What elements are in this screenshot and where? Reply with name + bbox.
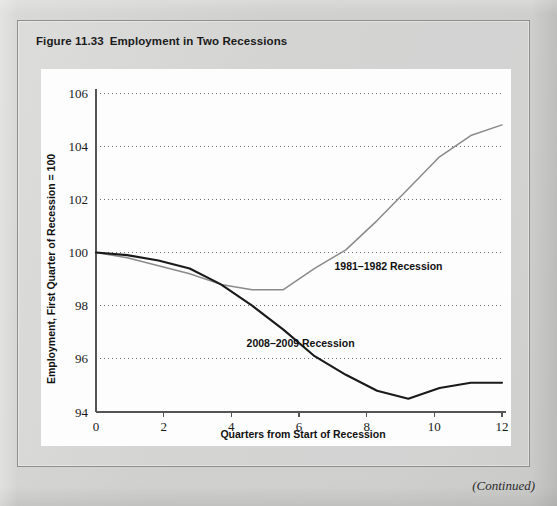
chart-y-tick-labels: 949698100102104106 [69,86,89,420]
x-tick-label-10: 10 [428,419,441,434]
chart-gridlines [96,93,502,359]
y-tick-label-102: 102 [69,192,89,207]
chart-series-annotations: 1981–1982 Recession2008–2009 Recession [247,260,443,349]
chart-plot-panel: 949698100102104106 024681012 1981–1982 R… [41,69,511,446]
chart-axes [96,89,506,412]
series-line-2008-2009 [96,253,502,399]
chart-x-ticks [164,412,502,417]
x-tick-label-0: 0 [93,419,100,434]
y-tick-label-98: 98 [75,298,88,313]
continued-note: (Continued) [472,478,535,494]
chart-x-axis-label: Quarters from Start of Recession [220,428,385,440]
annotation-2008-2009: 2008–2009 Recession [247,337,355,349]
y-tick-label-96: 96 [75,351,89,366]
x-tick-label-2: 2 [160,419,167,434]
figure-box: Figure 11.33Employment in Two Recessions… [17,20,530,467]
page-background: Figure 11.33Employment in Two Recessions… [0,0,557,506]
y-tick-label-94: 94 [75,405,89,420]
x-tick-label-12: 12 [496,419,509,434]
figure-title: Figure 11.33Employment in Two Recessions [36,35,287,47]
employment-recessions-line-chart: 949698100102104106 024681012 1981–1982 R… [41,69,511,446]
y-tick-label-106: 106 [69,86,89,101]
y-tick-label-100: 100 [69,245,89,260]
y-tick-label-104: 104 [69,139,89,154]
figure-number: Figure 11.33 [36,35,104,47]
chart-y-axis-label: Employment, First Quarter of Recession =… [45,154,57,384]
figure-title-text: Employment in Two Recessions [110,35,288,47]
annotation-1981-1982: 1981–1982 Recession [335,260,443,272]
